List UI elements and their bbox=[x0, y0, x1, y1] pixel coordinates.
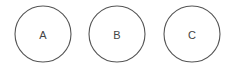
node-c-label: C bbox=[188, 29, 196, 41]
node-b: B bbox=[89, 6, 145, 62]
node-b-label: B bbox=[113, 29, 120, 41]
node-a-label: A bbox=[39, 29, 47, 41]
diagram-canvas: A B C bbox=[0, 0, 226, 66]
node-c: C bbox=[164, 6, 220, 62]
node-a: A bbox=[15, 6, 71, 62]
